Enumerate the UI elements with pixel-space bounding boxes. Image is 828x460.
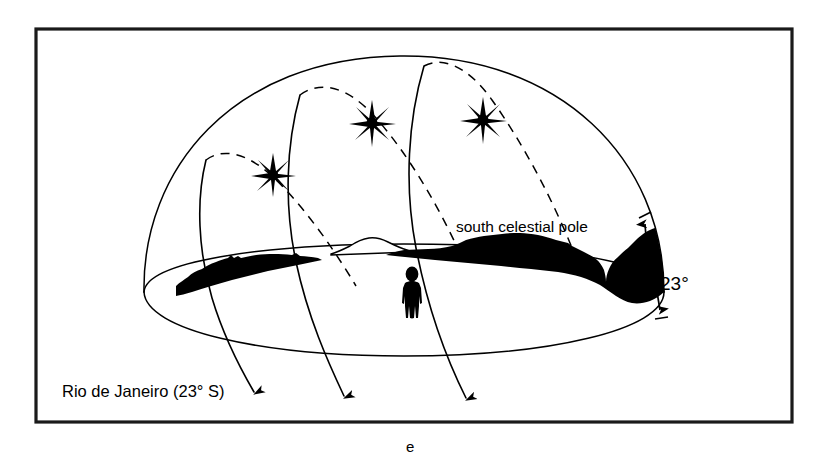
observer-figure	[402, 266, 422, 318]
terrain-right-mass	[386, 228, 664, 303]
star-2	[349, 100, 396, 147]
celestial-sphere-diagram: south celestial pole 23° Rio de Janeiro …	[0, 0, 828, 460]
terrain-left-mass	[176, 253, 322, 296]
panel-letter-label: e	[406, 438, 414, 455]
location-caption: Rio de Janeiro (23° S)	[62, 382, 225, 400]
figure-border	[36, 29, 792, 422]
star-trail-2-dashed	[300, 87, 462, 258]
pole-tick-mark	[639, 212, 651, 218]
pole-altitude-label: 23°	[660, 273, 689, 294]
south-celestial-pole-label: south celestial pole	[456, 218, 588, 235]
horizon-tick-mark	[655, 317, 668, 319]
astronomy-figure: south celestial pole 23° Rio de Janeiro …	[0, 0, 828, 460]
star-3	[460, 97, 507, 144]
